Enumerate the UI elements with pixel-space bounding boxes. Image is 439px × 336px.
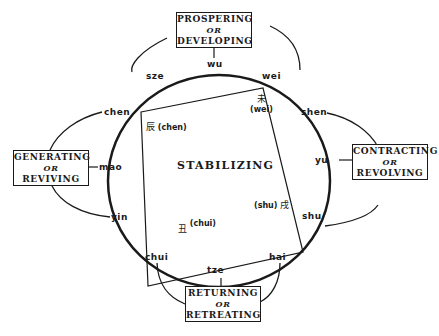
branch-wu: wu [207,60,223,69]
branch-shu: shu [302,212,322,221]
phase-right-line1: Contracting [353,146,427,157]
arc-right-top [327,113,378,147]
corner-wei-label: (wei) [250,105,273,114]
phase-box-left: Generating or Reviving [13,150,89,186]
arc-top-left [132,38,167,72]
arc-left-bottom [52,186,110,217]
arc-bottom-left [157,263,185,304]
phase-bottom-line2: Retreating [186,310,260,321]
phase-top-line1: Prospering [177,14,251,25]
branch-sze: sze [146,72,164,81]
corner-shu: (shu) 戌 [254,198,289,211]
branch-hai: hai [269,253,286,262]
branch-yin: yin [111,213,128,222]
branch-wei: wei [262,72,281,81]
branch-shen: shen [301,108,327,117]
corner-wei-glyph: 未 [250,92,273,105]
arc-top-right [270,26,300,70]
phase-right-line2: Revolving [353,168,427,179]
center-title: Stabilizing [177,159,274,172]
corner-chui: 丑 (chui) [178,216,216,229]
phase-left-or: or [14,163,88,174]
branch-chui: chui [145,253,168,262]
phase-box-right: Contracting or Revolving [352,144,428,180]
arc-right-bottom [325,205,378,226]
arc-left-top [50,112,102,150]
arc-bottom-right [260,263,280,302]
corner-chen-glyph: 辰 [146,122,155,132]
corner-shu-glyph: 戌 [280,200,289,210]
phase-left-line2: Reviving [14,174,88,185]
phase-box-bottom: Returning or Retreating [185,286,261,322]
branch-tze: tze [207,266,224,275]
corner-chui-label: (chui) [190,219,216,228]
phase-top-line2: Developing [177,36,251,47]
phase-bottom-line1: Returning [186,288,260,299]
corner-chui-glyph: 丑 [178,224,187,234]
phase-top-or: or [177,25,251,36]
phase-right-or: or [353,157,427,168]
phase-left-line1: Generating [14,152,88,163]
branch-mao: mao [99,163,122,172]
corner-wei: 未 (wei) [250,92,273,114]
corner-chen: 辰 (chen) [146,120,187,133]
phase-box-top: Prospering or Developing [176,12,252,48]
phase-bottom-or: or [186,299,260,310]
corner-shu-label: (shu) [254,201,277,210]
branch-yu: yu [315,156,328,165]
central-circle [108,75,330,287]
corner-chen-label: (chen) [158,123,187,132]
branch-chen: chen [104,108,130,117]
